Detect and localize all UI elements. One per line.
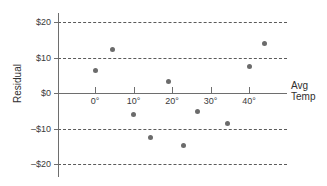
gridline bbox=[58, 129, 287, 130]
y-tick-label: –$20 bbox=[5, 159, 51, 169]
y-axis-line bbox=[58, 13, 59, 177]
x-tick-label: 20° bbox=[157, 96, 187, 107]
x-tick-mark bbox=[172, 87, 173, 93]
gridline bbox=[58, 22, 287, 23]
y-tick-label: $20 bbox=[5, 17, 51, 27]
gridline bbox=[58, 58, 287, 59]
y-tick-mark bbox=[54, 129, 59, 130]
x-tick-mark bbox=[211, 87, 212, 93]
x-tick-label: 40° bbox=[234, 96, 264, 107]
x-axis-line bbox=[58, 93, 287, 94]
x-axis-title-line1: Avg bbox=[291, 80, 315, 91]
y-tick-mark bbox=[54, 164, 59, 165]
y-axis-title: Residual bbox=[12, 44, 23, 124]
data-point bbox=[148, 135, 153, 140]
data-point bbox=[93, 68, 98, 73]
gridline bbox=[58, 164, 287, 165]
y-tick-mark bbox=[54, 93, 59, 94]
x-tick-label: 30° bbox=[196, 96, 226, 107]
x-tick-mark bbox=[249, 87, 250, 93]
data-point bbox=[181, 143, 186, 148]
data-point bbox=[131, 112, 136, 117]
x-axis-title: Avg Temp bbox=[291, 80, 315, 102]
y-tick-mark bbox=[54, 22, 59, 23]
data-point bbox=[262, 41, 267, 46]
data-point bbox=[225, 121, 230, 126]
residual-plot-figure: $20$10$0–$10–$20 0°10°20°30°40° Residual… bbox=[0, 0, 327, 186]
x-tick-label: 10° bbox=[119, 96, 149, 107]
x-tick-label: 0° bbox=[80, 96, 110, 107]
y-tick-mark bbox=[54, 58, 59, 59]
x-tick-mark bbox=[95, 87, 96, 93]
x-tick-mark bbox=[134, 87, 135, 93]
data-point bbox=[247, 64, 252, 69]
x-axis-title-line2: Temp bbox=[291, 91, 315, 102]
data-point bbox=[166, 79, 171, 84]
data-point bbox=[110, 47, 115, 52]
y-tick-label: –$10 bbox=[5, 124, 51, 134]
data-point bbox=[195, 109, 200, 114]
